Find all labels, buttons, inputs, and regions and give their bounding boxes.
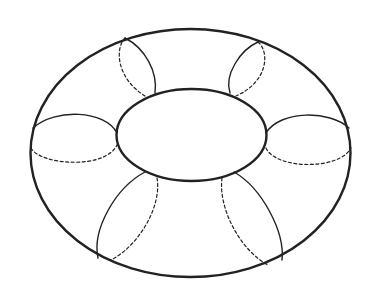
section-left-dashed: [31, 145, 117, 162]
section-right-solid: [266, 115, 349, 133]
torus-diagram: [0, 0, 378, 299]
outer-ellipse: [31, 29, 351, 277]
section-right-dashed: [266, 148, 351, 165]
section-bottom-left-solid: [97, 172, 145, 258]
section-bottom-right-solid: [234, 172, 282, 260]
torus-figure: [0, 0, 378, 299]
section-bottom-right-dashed: [222, 178, 268, 265]
section-bottom-left-dashed: [111, 178, 158, 260]
section-top-right-dashed: [236, 42, 265, 96]
section-left-solid: [33, 114, 117, 133]
section-top-right-solid: [229, 42, 258, 93]
section-top-left-solid: [125, 38, 155, 93]
inner-ellipse: [117, 89, 267, 181]
section-top-left-dashed: [119, 38, 145, 96]
